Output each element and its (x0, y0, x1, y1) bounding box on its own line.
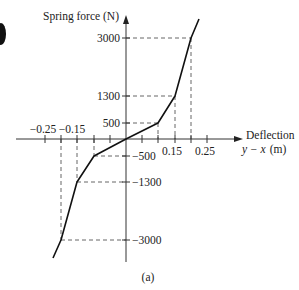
spring-force-diagram: Spring force (N) Deflection y − x(m) −0.… (0, 0, 299, 290)
x-tick-label-neg-0.15: −0.15 (59, 123, 86, 135)
y-tick-label-neg-1300: −1300 (132, 176, 162, 188)
x-axis-label-line2: y − x(m) (241, 143, 286, 156)
x-axis-label-line1: Deflection (246, 129, 295, 141)
x-tick-label-0.15: 0.15 (162, 145, 182, 157)
x-tick-label-neg-0.25: −0.25 (30, 123, 57, 135)
y-tick-label-neg-3000: −3000 (132, 234, 162, 246)
y-axis-label: Spring force (N) (43, 10, 119, 23)
y-tick-label-500: 500 (103, 117, 121, 129)
x-axis-variable: y − x (241, 143, 267, 156)
x-axis-unit: (m) (270, 143, 287, 156)
figure-caption: (a) (142, 271, 155, 284)
axes (16, 20, 238, 262)
cropped-marker (0, 23, 6, 45)
y-tick-label-neg-500: −500 (132, 150, 156, 162)
y-axis-arrow-icon (123, 15, 129, 24)
x-axis-arrow-icon (234, 136, 243, 142)
y-tick-label-3000: 3000 (97, 32, 120, 44)
y-tick-label-1300: 1300 (97, 90, 120, 102)
x-tick-label-0.25: 0.25 (195, 145, 215, 157)
